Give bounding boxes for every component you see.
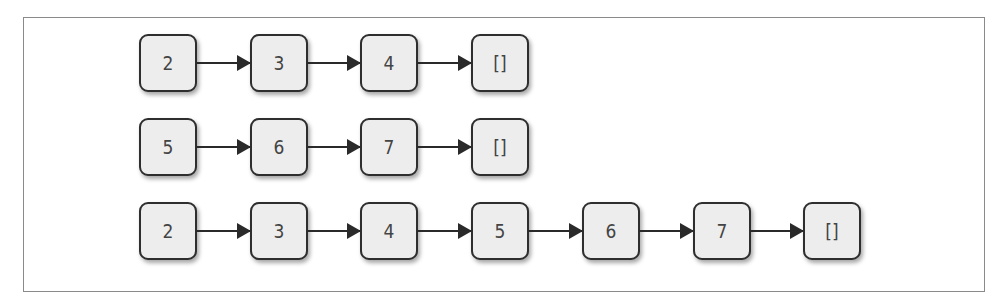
arrow-right-icon <box>307 230 360 232</box>
arrow-right-icon <box>528 230 582 232</box>
arrow-right-icon <box>417 146 471 148</box>
list-node: 5 <box>471 202 529 260</box>
list-node: 5 <box>139 118 197 176</box>
arrow-right-icon <box>417 230 471 232</box>
arrow-right-icon <box>750 230 803 232</box>
list-node: 4 <box>360 202 418 260</box>
list-node-empty: [] <box>471 34 529 92</box>
list-node: 6 <box>250 118 308 176</box>
arrow-right-icon <box>639 230 693 232</box>
arrow-right-icon <box>196 62 250 64</box>
list-node: 3 <box>250 202 308 260</box>
list-node-empty: [] <box>803 202 861 260</box>
list-node: 2 <box>139 34 197 92</box>
arrow-right-icon <box>307 146 360 148</box>
arrow-right-icon <box>417 62 471 64</box>
list-node: 6 <box>582 202 640 260</box>
list-node: 4 <box>360 34 418 92</box>
arrow-right-icon <box>196 146 250 148</box>
list-node: 7 <box>693 202 751 260</box>
list-node: 7 <box>360 118 418 176</box>
arrow-right-icon <box>196 230 250 232</box>
list-node-empty: [] <box>471 118 529 176</box>
list-node: 2 <box>139 202 197 260</box>
arrow-right-icon <box>307 62 360 64</box>
list-node: 3 <box>250 34 308 92</box>
